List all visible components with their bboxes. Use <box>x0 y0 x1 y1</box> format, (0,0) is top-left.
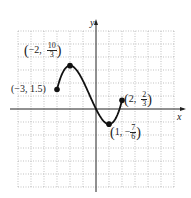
point-label-min: (1, −76) <box>110 124 141 141</box>
point-label-left-endpoint: (−3, 1.5) <box>11 84 46 94</box>
function-curve <box>57 66 122 125</box>
point-label-max: (−2, 103) <box>24 42 61 59</box>
y-axis-arrow-icon <box>94 19 98 25</box>
x-axis-label: x <box>177 112 181 122</box>
point-label-right-endpoint: (2, 23) <box>124 91 152 108</box>
data-point <box>67 63 73 69</box>
data-point <box>54 87 60 93</box>
y-axis-label: y <box>90 18 94 28</box>
chart-plot <box>0 0 191 198</box>
